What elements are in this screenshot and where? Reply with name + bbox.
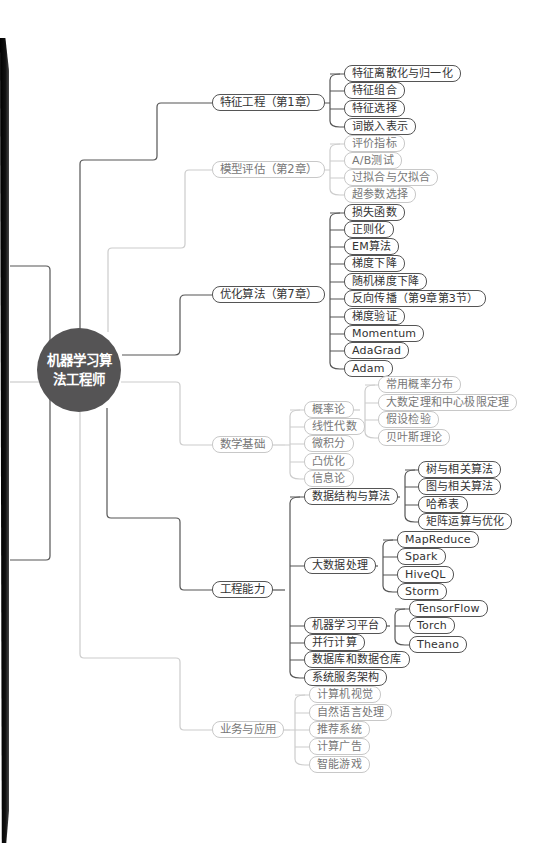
leaf-regularization[interactable]: 正则化 <box>344 221 394 238</box>
leaf-loss-function[interactable]: 损失函数 <box>344 204 405 221</box>
branch-feature-engineering[interactable]: 特征工程（第1章） <box>212 94 325 111</box>
leaf-evaluation-metrics[interactable]: 评价指标 <box>344 135 405 152</box>
sub-linear-algebra[interactable]: 线性代数 <box>304 418 365 435</box>
branch-applications[interactable]: 业务与应用 <box>212 721 284 738</box>
leaf-matrix-ops[interactable]: 矩阵运算与优化 <box>418 513 512 530</box>
branch-model-evaluation[interactable]: 模型评估（第2章） <box>212 161 325 178</box>
leaf-lln-clt[interactable]: 大数定理和中心极限定理 <box>378 394 517 411</box>
leaf-torch[interactable]: Torch <box>409 617 455 634</box>
leaf-gradient-check[interactable]: 梯度验证 <box>344 308 405 325</box>
leaf-bayes[interactable]: 贝叶斯理论 <box>378 429 450 446</box>
leaf-tensorflow[interactable]: TensorFlow <box>409 600 488 617</box>
root-label: 机器学习算法工程师 <box>45 351 113 389</box>
sub-database[interactable]: 数据库和数据仓库 <box>304 651 410 668</box>
leaf-adagrad[interactable]: AdaGrad <box>344 342 409 359</box>
leaf-hyperparameter[interactable]: 超参数选择 <box>344 186 416 203</box>
leaf-spark[interactable]: Spark <box>397 548 446 565</box>
sub-calculus[interactable]: 微积分 <box>304 435 354 452</box>
sub-convex-optimization[interactable]: 凸优化 <box>304 453 354 470</box>
leaf-sgd[interactable]: 随机梯度下降 <box>344 273 427 290</box>
leaf-computer-vision[interactable]: 计算机视觉 <box>309 686 381 703</box>
leaf-mapreduce[interactable]: MapReduce <box>397 531 479 548</box>
leaf-ab-testing[interactable]: A/B测试 <box>344 152 402 169</box>
leaf-feature-discretization[interactable]: 特征离散化与归一化 <box>344 65 461 82</box>
leaf-probability-distributions[interactable]: 常用概率分布 <box>378 376 461 393</box>
leaf-hypothesis-testing[interactable]: 假设检验 <box>378 411 439 428</box>
leaf-hash-table[interactable]: 哈希表 <box>418 496 468 513</box>
leaf-word-embedding[interactable]: 词嵌入表示 <box>344 118 416 135</box>
leaf-gradient-descent[interactable]: 梯度下降 <box>344 255 405 272</box>
leaf-nlp[interactable]: 自然语言处理 <box>309 704 392 721</box>
sub-data-structures[interactable]: 数据结构与算法 <box>304 488 398 505</box>
leaf-hiveql[interactable]: HiveQL <box>397 566 454 583</box>
leaf-computational-advertising[interactable]: 计算广告 <box>309 738 370 755</box>
branch-optimization[interactable]: 优化算法（第7章） <box>212 286 325 303</box>
leaf-em-algorithm[interactable]: EM算法 <box>344 238 399 255</box>
leaf-adam[interactable]: Adam <box>344 360 393 377</box>
leaf-backprop[interactable]: 反向传播（第9章第3节） <box>344 290 486 307</box>
leaf-momentum[interactable]: Momentum <box>344 325 424 342</box>
branch-engineering[interactable]: 工程能力 <box>212 581 273 598</box>
branch-math[interactable]: 数学基础 <box>212 436 273 453</box>
leaf-feature-combination[interactable]: 特征组合 <box>344 82 405 99</box>
sub-probability[interactable]: 概率论 <box>304 401 354 418</box>
sub-parallel-computing[interactable]: 并行计算 <box>304 634 365 651</box>
sub-big-data[interactable]: 大数据处理 <box>304 557 376 574</box>
leaf-trees[interactable]: 树与相关算法 <box>418 461 501 478</box>
sub-system-architecture[interactable]: 系统服务架构 <box>304 669 387 686</box>
mind-map-page: 机器学习算法工程师 特征工程（第1章） 特征离散化与归一化 特征组合 特征选择 … <box>0 0 541 843</box>
leaf-game-ai[interactable]: 智能游戏 <box>309 756 370 773</box>
leaf-theano[interactable]: Theano <box>409 636 467 653</box>
sub-information-theory[interactable]: 信息论 <box>304 470 354 487</box>
sub-ml-platform[interactable]: 机器学习平台 <box>304 617 387 634</box>
leaf-recommender[interactable]: 推荐系统 <box>309 721 370 738</box>
root-node: 机器学习算法工程师 <box>37 328 121 412</box>
leaf-graphs[interactable]: 图与相关算法 <box>418 478 501 495</box>
leaf-storm[interactable]: Storm <box>397 583 447 600</box>
leaf-feature-selection[interactable]: 特征选择 <box>344 100 405 117</box>
leaf-overfitting[interactable]: 过拟合与欠拟合 <box>344 169 438 186</box>
connector-lines <box>0 0 541 843</box>
